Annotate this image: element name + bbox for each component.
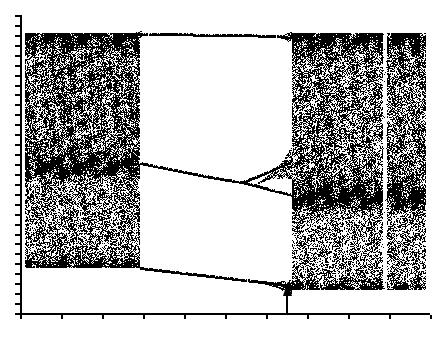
bifurcation-diagram-figure: [0, 0, 437, 337]
plot-area: [21, 15, 430, 313]
